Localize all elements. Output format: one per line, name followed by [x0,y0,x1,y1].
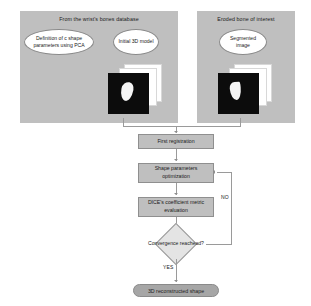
segmented-slice-stack [216,64,278,118]
database-panel-title: From the wrist's bones database [20,16,178,22]
bone-shape-icon [229,82,242,101]
arrow-to-terminator [174,280,178,282]
pca-definition-callout: Definition of c shape parameters using P… [24,29,94,55]
branch-no-label: NO [221,194,229,200]
initial-3d-model-callout: Initial 3D model [113,29,159,55]
eroded-bone-panel-title: Eroded bone of interest [197,16,295,22]
connector-right-panel-down [240,118,241,126]
connector-left-panel-down [123,118,124,126]
first-registration-label: First registration [157,138,194,146]
convergence-decision: Convergence reachead? [146,229,206,259]
reconstructed-shape-label: 3D reconstructed shape [148,288,204,294]
slice-front-image [218,73,259,114]
initial-3d-model-label: Initial 3D model [118,38,153,45]
initial-model-slice-stack [106,64,166,118]
branch-yes-label: YES [163,264,174,270]
arrow-to-first-registration [174,131,178,133]
shape-parameters-optimization-label: Shape parameters optimization [141,165,211,181]
connector-no-out [206,244,232,245]
convergence-decision-label: Convergence reachead? [148,240,204,247]
arrow-to-optimization [174,159,178,161]
arrow-to-dice [174,193,178,195]
shape-parameters-optimization-box: Shape parameters optimization [138,163,214,183]
dice-metric-evaluation-label: DICE's coefficient metric evaluation [141,199,211,215]
slice-front-image [108,73,149,114]
bone-shape-icon [119,81,134,102]
connector-no-up [231,172,232,244]
convergence-decision-text: Convergence reachead? [146,229,206,259]
segmented-image-label: Segmented image [223,35,263,50]
connector-yes-down [176,259,177,282]
connector-panels-join [123,126,241,127]
pca-definition-label: Definition of c shape parameters using P… [28,35,90,50]
first-registration-box: First registration [138,134,214,149]
segmented-image-callout: Segmented image [219,29,267,55]
arrow-no-to-optimization [213,170,215,174]
flowchart-diagram: From the wrist's bones database Definiti… [0,0,311,306]
dice-metric-evaluation-box: DICE's coefficient metric evaluation [138,197,214,217]
connector-no-back-to-optimization [217,172,231,173]
reconstructed-shape-terminator: 3D reconstructed shape [133,284,219,297]
